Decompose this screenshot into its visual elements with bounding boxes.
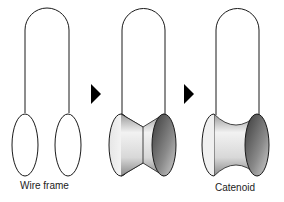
label-catenoid: Catenoid bbox=[215, 182, 255, 193]
label-wire-frame: Wire frame bbox=[20, 180, 69, 191]
panel-catenoid bbox=[202, 8, 269, 176]
right-ring-face bbox=[152, 114, 176, 176]
diagram-canvas bbox=[0, 0, 284, 202]
left-ring bbox=[12, 114, 38, 176]
arrow-right-icon bbox=[184, 84, 194, 104]
right-ring-face bbox=[245, 114, 269, 176]
panel-intermediate bbox=[109, 8, 176, 176]
film-surface-front bbox=[121, 114, 143, 176]
wire-loop bbox=[216, 8, 259, 115]
left-ring-edge bbox=[202, 114, 214, 176]
right-ring bbox=[55, 114, 81, 176]
wire-loop bbox=[122, 8, 165, 115]
wire-loop bbox=[25, 8, 69, 113]
arrow-right-icon bbox=[91, 84, 101, 104]
panel-wire-frame bbox=[12, 8, 81, 176]
